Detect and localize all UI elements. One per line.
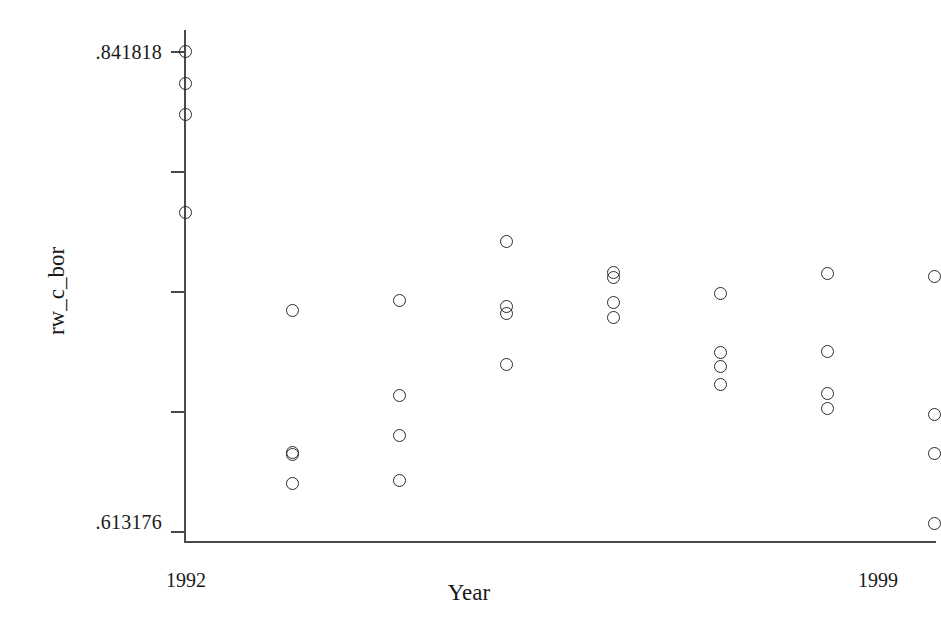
y-axis-tick [171,411,184,413]
data-point [393,474,406,487]
data-point [500,307,513,320]
data-point [607,296,620,309]
x-axis-tick [0,52,2,65]
y-axis-tick [171,291,184,293]
data-point [607,311,620,324]
data-point [393,389,406,402]
x-axis-title: Year [0,580,938,606]
data-point [286,477,299,490]
data-point [821,345,834,358]
data-point [928,408,941,421]
y-axis-tick [171,171,184,173]
x-axis-tick [0,39,2,52]
data-point [500,235,513,248]
data-point [714,287,727,300]
x-axis-line [184,541,936,543]
y-axis-tick [171,51,184,53]
data-point [393,294,406,307]
x-axis-tick [0,13,2,26]
data-point [607,266,620,279]
data-point [286,446,299,459]
data-point [714,378,727,391]
y-axis-title: rw_c_bor [44,211,70,371]
data-point [714,346,727,359]
data-point [821,267,834,280]
data-point [286,304,299,317]
y-axis-tick [171,531,184,533]
data-point [928,517,941,530]
data-point [500,300,513,313]
data-point [928,270,941,283]
data-point [286,448,299,461]
data-point [821,387,834,400]
x-axis-tick [0,0,2,13]
x-axis-tick [0,91,2,104]
data-point [714,360,727,373]
data-point [821,402,834,415]
y-axis-tick-label-bottom: .613176 [30,512,162,532]
data-point [393,429,406,442]
data-point [500,358,513,371]
data-point [928,447,941,460]
data-point [607,271,620,284]
y-axis-line [184,30,186,542]
x-axis-tick [0,26,2,39]
x-axis-tick [0,78,2,91]
x-axis-tick [0,65,2,78]
y-axis-tick-label-top: .841818 [30,42,162,62]
